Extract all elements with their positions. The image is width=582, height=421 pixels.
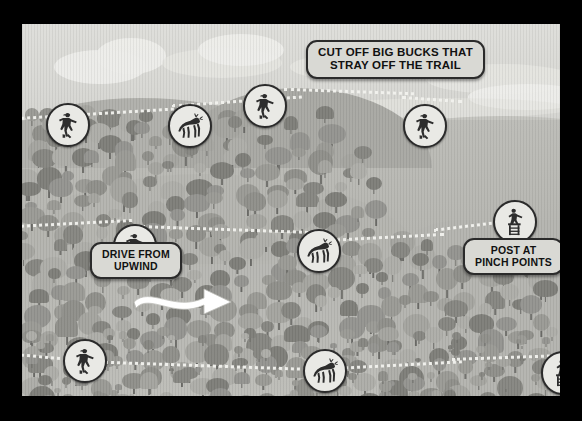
- hunter-icon: [70, 346, 100, 376]
- tree: [290, 390, 298, 396]
- tree: [169, 368, 174, 374]
- callout-line-1: POST AT: [475, 244, 552, 256]
- illustration-frame: CUT OFF BIG BUCKS THAT STRAY OFF THE TRA…: [0, 0, 582, 421]
- tree: [310, 325, 327, 343]
- tree: [22, 182, 41, 201]
- tree: [140, 372, 158, 396]
- tree: [237, 395, 255, 397]
- map-marker-deer[interactable]: [297, 229, 341, 273]
- tree: [143, 176, 157, 190]
- tree: [328, 287, 340, 301]
- tree: [229, 257, 245, 274]
- tree: [46, 334, 54, 344]
- callout-line-1: CUT OFF BIG BUCKS THAT: [318, 46, 473, 59]
- tree: [444, 390, 456, 396]
- tree: [376, 272, 389, 285]
- tree: [194, 163, 207, 176]
- tree: [123, 338, 136, 353]
- hunter-icon: [250, 91, 280, 121]
- tree: [255, 374, 272, 390]
- hunter-icon: [410, 111, 440, 141]
- callout-line-2: PINCH POINTS: [475, 256, 552, 268]
- tree: [378, 371, 389, 384]
- tree: [348, 373, 357, 383]
- tree: [240, 168, 255, 182]
- wind-direction-arrow: [130, 282, 234, 316]
- map-marker-deer[interactable]: [303, 349, 347, 393]
- tree: [234, 346, 243, 357]
- tree: [241, 333, 249, 343]
- deer-icon: [175, 111, 205, 141]
- tree: [267, 190, 288, 214]
- tree: [296, 192, 319, 213]
- tree: [205, 192, 223, 208]
- tree: [480, 392, 496, 396]
- tree: [412, 253, 429, 271]
- tree: [257, 393, 277, 396]
- tree: [129, 394, 134, 396]
- tree: [26, 331, 37, 345]
- tree: [115, 384, 122, 392]
- tree: [209, 388, 232, 396]
- deer-icon: [310, 356, 340, 386]
- tree: [261, 349, 271, 361]
- tree: [117, 286, 130, 299]
- tree: [275, 370, 283, 380]
- tree: [353, 265, 366, 276]
- tree: [452, 332, 461, 343]
- tree: [122, 192, 138, 213]
- callout-line-2: UPWIND: [102, 260, 170, 272]
- tree: [408, 391, 420, 396]
- tree: [399, 295, 411, 308]
- hunter-treestand-icon: [500, 207, 530, 237]
- callout-drive-from-upwind[interactable]: DRIVE FROM UPWIND: [90, 242, 182, 279]
- tree: [351, 206, 363, 221]
- tree: [54, 388, 61, 396]
- tree: [366, 177, 382, 195]
- tree: [54, 239, 68, 255]
- tree: [234, 372, 250, 388]
- tree: [93, 391, 103, 396]
- tree: [315, 295, 328, 310]
- tree: [485, 362, 492, 371]
- tree: [181, 253, 198, 269]
- tree: [408, 373, 416, 383]
- tree: [292, 148, 306, 160]
- map-marker-deer[interactable]: [168, 104, 212, 148]
- callout-cut-off-big-bucks[interactable]: CUT OFF BIG BUCKS THAT STRAY OFF THE TRA…: [306, 40, 485, 79]
- map-marker-hunter[interactable]: [46, 103, 90, 147]
- tree: [134, 122, 150, 138]
- tree: [31, 391, 39, 396]
- tree: [365, 200, 388, 226]
- tree: [22, 231, 28, 243]
- tree: [169, 229, 183, 242]
- tree: [48, 268, 61, 283]
- tree: [160, 392, 173, 396]
- tree: [210, 162, 234, 186]
- tree: [96, 227, 109, 243]
- tree: [356, 283, 369, 299]
- tree: [170, 209, 184, 226]
- tree: [476, 346, 484, 356]
- tree: [62, 394, 75, 396]
- tree: [368, 343, 379, 356]
- tree: [292, 380, 299, 389]
- hunter-treestand-icon: [548, 358, 560, 388]
- tree: [107, 335, 113, 343]
- callout-post-at-pinch-points[interactable]: POST AT PINCH POINTS: [463, 238, 560, 275]
- cloud: [96, 38, 166, 74]
- map-marker-hunter[interactable]: [403, 104, 447, 148]
- tree: [162, 161, 174, 172]
- tree: [198, 335, 207, 346]
- tree: [318, 160, 332, 178]
- tree: [358, 393, 381, 396]
- map-marker-hunter[interactable]: [243, 84, 287, 128]
- tree: [66, 266, 86, 284]
- tree: [228, 116, 242, 132]
- tree: [338, 386, 351, 396]
- map-marker-hunter[interactable]: [63, 339, 107, 383]
- callout-line-2: STRAY OFF THE TRAIL: [318, 59, 473, 72]
- cloud: [198, 34, 284, 66]
- tree: [47, 200, 61, 214]
- tree: [195, 367, 201, 375]
